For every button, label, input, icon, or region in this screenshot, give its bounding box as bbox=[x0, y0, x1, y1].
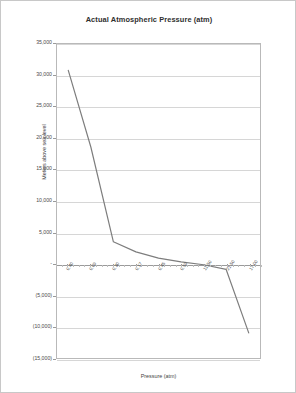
y-tick-label: 30,000 bbox=[12, 72, 52, 77]
x-minor-tick-mark bbox=[90, 265, 91, 267]
x-minor-tick-mark bbox=[62, 265, 63, 267]
y-tick-label: (5,000) bbox=[12, 293, 52, 298]
x-minor-tick-mark bbox=[250, 265, 251, 267]
y-tick-label: 25,000 bbox=[12, 103, 52, 108]
page-title: Actual Atmospheric Pressure (atm) bbox=[1, 15, 296, 24]
y-tick-label: 20,000 bbox=[12, 135, 52, 140]
x-minor-tick-mark bbox=[244, 265, 245, 267]
x-minor-tick-mark bbox=[73, 265, 74, 267]
x-minor-tick-mark bbox=[187, 265, 188, 267]
y-tick-label: (10,000) bbox=[12, 324, 52, 329]
y-tick-mark bbox=[53, 169, 56, 170]
x-minor-tick-mark bbox=[164, 265, 165, 267]
x-minor-tick-mark bbox=[67, 265, 68, 267]
x-minor-tick-mark bbox=[147, 265, 148, 267]
x-axis-title: Pressure (atm) bbox=[56, 373, 261, 379]
x-minor-tick-mark bbox=[227, 265, 228, 267]
y-tick-label: 35,000 bbox=[12, 40, 52, 45]
x-minor-tick-mark bbox=[153, 265, 154, 267]
x-minor-tick-mark bbox=[221, 265, 222, 267]
y-tick-label: (15,000) bbox=[12, 356, 52, 361]
y-tick-mark bbox=[53, 296, 56, 297]
series-line-altitude-vs-pressure bbox=[57, 44, 260, 358]
y-tick-label: - bbox=[12, 261, 52, 266]
x-minor-tick-mark bbox=[176, 265, 177, 267]
x-minor-tick-mark bbox=[215, 265, 216, 267]
y-tick-mark bbox=[53, 138, 56, 139]
x-minor-tick-mark bbox=[107, 265, 108, 267]
gridline bbox=[57, 360, 260, 361]
y-tick-mark bbox=[53, 359, 56, 360]
x-minor-tick-mark bbox=[113, 265, 114, 267]
x-minor-tick-mark bbox=[136, 265, 137, 267]
x-minor-tick-mark bbox=[233, 265, 234, 267]
y-tick-mark bbox=[53, 75, 56, 76]
x-minor-tick-mark bbox=[255, 265, 256, 267]
x-minor-tick-mark bbox=[119, 265, 120, 267]
y-tick-mark bbox=[53, 43, 56, 44]
y-axis-title: Meters above sea level bbox=[41, 107, 47, 197]
y-tick-mark bbox=[53, 106, 56, 107]
y-tick-label: 5,000 bbox=[12, 230, 52, 235]
y-tick-label: 15,000 bbox=[12, 166, 52, 171]
x-minor-tick-mark bbox=[198, 265, 199, 267]
x-minor-tick-mark bbox=[84, 265, 85, 267]
chart-page: Actual Atmospheric Pressure (atm) Meters… bbox=[0, 0, 296, 393]
x-minor-tick-mark bbox=[56, 265, 57, 267]
x-minor-tick-mark bbox=[210, 265, 211, 267]
x-minor-tick-mark bbox=[170, 265, 171, 267]
x-minor-tick-mark bbox=[238, 265, 239, 267]
y-tick-mark bbox=[53, 233, 56, 234]
x-minor-tick-mark bbox=[79, 265, 80, 267]
x-minor-tick-mark bbox=[204, 265, 205, 267]
x-minor-tick-mark bbox=[124, 265, 125, 267]
y-tick-mark bbox=[53, 327, 56, 328]
y-tick-label: 10,000 bbox=[12, 198, 52, 203]
y-tick-mark bbox=[53, 201, 56, 202]
plot-area bbox=[56, 43, 261, 359]
x-minor-tick-mark bbox=[96, 265, 97, 267]
x-minor-tick-mark bbox=[159, 265, 160, 267]
x-minor-tick-mark bbox=[261, 265, 262, 267]
x-minor-tick-mark bbox=[193, 265, 194, 267]
x-minor-tick-mark bbox=[102, 265, 103, 267]
x-minor-tick-mark bbox=[141, 265, 142, 267]
x-minor-tick-mark bbox=[181, 265, 182, 267]
x-minor-tick-mark bbox=[130, 265, 131, 267]
